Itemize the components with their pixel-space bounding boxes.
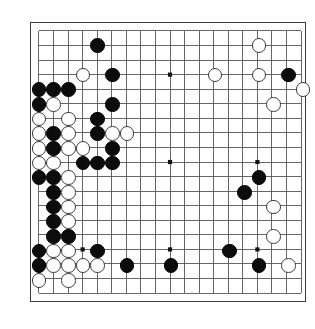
white-stone[interactable] <box>120 126 135 141</box>
white-stone[interactable] <box>61 141 76 156</box>
white-stone[interactable] <box>32 126 47 141</box>
white-stone[interactable] <box>61 170 76 185</box>
white-stone[interactable] <box>61 126 76 141</box>
white-stone[interactable] <box>61 200 76 215</box>
black-stone[interactable] <box>90 156 105 171</box>
black-stone[interactable] <box>32 258 47 273</box>
go-board-container <box>0 0 315 329</box>
black-stone[interactable] <box>105 156 120 171</box>
black-stone[interactable] <box>61 229 76 244</box>
white-stone[interactable] <box>61 244 76 259</box>
black-stone[interactable] <box>105 68 120 83</box>
stone-layer <box>31 23 305 301</box>
black-stone[interactable] <box>222 244 237 259</box>
white-stone[interactable] <box>252 68 267 83</box>
black-stone[interactable] <box>164 258 179 273</box>
white-stone[interactable] <box>46 244 61 259</box>
black-stone[interactable] <box>252 258 267 273</box>
black-stone[interactable] <box>105 97 120 112</box>
black-stone[interactable] <box>237 185 252 200</box>
black-stone[interactable] <box>105 141 120 156</box>
black-stone[interactable] <box>46 229 61 244</box>
white-stone[interactable] <box>281 258 296 273</box>
black-stone[interactable] <box>46 170 61 185</box>
go-board[interactable] <box>30 22 306 302</box>
black-stone[interactable] <box>32 97 47 112</box>
black-stone[interactable] <box>46 200 61 215</box>
black-stone[interactable] <box>90 38 105 53</box>
white-stone[interactable] <box>32 112 47 127</box>
white-stone[interactable] <box>61 258 76 273</box>
white-stone[interactable] <box>61 214 76 229</box>
white-stone[interactable] <box>61 273 76 288</box>
white-stone[interactable] <box>61 112 76 127</box>
white-stone[interactable] <box>266 229 281 244</box>
white-stone[interactable] <box>208 68 223 83</box>
black-stone[interactable] <box>46 214 61 229</box>
white-stone[interactable] <box>76 258 91 273</box>
black-stone[interactable] <box>90 112 105 127</box>
white-stone[interactable] <box>266 97 281 112</box>
white-stone[interactable] <box>46 258 61 273</box>
black-stone[interactable] <box>46 141 61 156</box>
black-stone[interactable] <box>281 68 296 83</box>
white-stone[interactable] <box>32 141 47 156</box>
black-stone[interactable] <box>90 244 105 259</box>
black-stone[interactable] <box>76 156 91 171</box>
black-stone[interactable] <box>61 82 76 97</box>
white-stone[interactable] <box>32 156 47 171</box>
white-stone[interactable] <box>296 82 311 97</box>
white-stone[interactable] <box>61 185 76 200</box>
white-stone[interactable] <box>76 141 91 156</box>
white-stone[interactable] <box>266 200 281 215</box>
black-stone[interactable] <box>120 258 135 273</box>
black-stone[interactable] <box>46 126 61 141</box>
white-stone[interactable] <box>90 258 105 273</box>
white-stone[interactable] <box>76 68 91 83</box>
white-stone[interactable] <box>32 273 47 288</box>
white-stone[interactable] <box>105 126 120 141</box>
black-stone[interactable] <box>32 82 47 97</box>
white-stone[interactable] <box>46 97 61 112</box>
black-stone[interactable] <box>90 126 105 141</box>
black-stone[interactable] <box>252 170 267 185</box>
white-stone[interactable] <box>46 156 61 171</box>
black-stone[interactable] <box>46 82 61 97</box>
black-stone[interactable] <box>46 185 61 200</box>
black-stone[interactable] <box>32 244 47 259</box>
white-stone[interactable] <box>252 38 267 53</box>
black-stone[interactable] <box>32 170 47 185</box>
